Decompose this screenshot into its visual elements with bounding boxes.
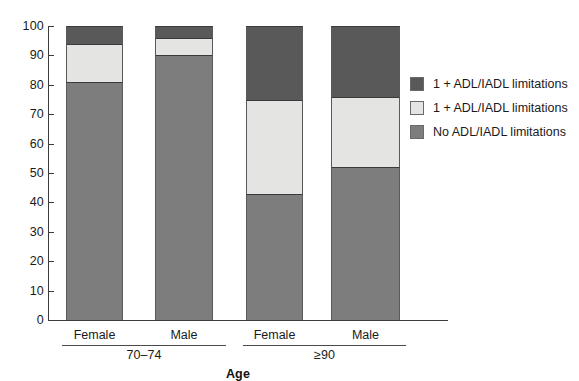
bar-segment xyxy=(331,97,400,168)
y-axis-tick xyxy=(48,55,54,56)
y-axis-tick-label: 30 xyxy=(0,226,44,238)
bar-segment xyxy=(246,100,303,194)
y-axis-tick xyxy=(48,144,54,145)
y-axis-tick-label-text: 30 xyxy=(4,226,44,238)
legend-swatch-icon xyxy=(410,77,424,91)
legend-swatch-icon xyxy=(410,101,424,115)
y-axis-tick-label: 40 xyxy=(0,196,44,208)
bar-segment xyxy=(155,26,213,38)
y-axis-tick-label-text: 90 xyxy=(4,49,44,61)
y-axis-tick xyxy=(48,291,54,292)
y-axis-tick xyxy=(48,232,54,233)
y-axis-tick-label: 90 xyxy=(0,49,44,61)
bar-segment xyxy=(155,55,213,320)
x-axis-tick-label: Female xyxy=(230,328,320,342)
bar-column xyxy=(246,26,303,320)
y-axis-tick-label: 80 xyxy=(0,79,44,91)
bar-segment xyxy=(66,82,123,320)
bar-column xyxy=(155,26,213,320)
y-axis-tick-label-text: 10 xyxy=(4,285,44,297)
y-axis-tick-label-text: 0 xyxy=(4,314,44,326)
bar-segment xyxy=(246,194,303,320)
y-axis-tick xyxy=(48,261,54,262)
legend-item: 1 + ADL/IADL limitations xyxy=(410,72,578,96)
x-axis-title: Age xyxy=(148,367,328,381)
bar-segment xyxy=(66,44,123,82)
y-axis-tick xyxy=(48,320,54,321)
legend-item-label: No ADL/IADL limitations xyxy=(433,125,566,139)
y-axis-tick-label-text: 60 xyxy=(4,138,44,150)
y-axis-tick xyxy=(48,173,54,174)
y-axis-tick-label: 70 xyxy=(0,108,44,120)
y-axis-tick-label: 0 xyxy=(0,314,44,326)
group-label-2: ≥90 xyxy=(243,348,406,362)
y-axis-tick xyxy=(48,85,54,86)
bar-segment xyxy=(66,26,123,44)
y-axis-tick-label: 100 xyxy=(0,20,44,32)
bar-column xyxy=(66,26,123,320)
legend-item-label: 1 + ADL/IADL limitations xyxy=(433,101,568,115)
bar-column xyxy=(331,26,400,320)
x-axis-line xyxy=(48,320,448,321)
y-axis-tick-label-text: 70 xyxy=(4,108,44,120)
y-axis-tick-label: 20 xyxy=(0,255,44,267)
bar-segment xyxy=(331,167,400,320)
y-axis-tick-label: 50 xyxy=(0,167,44,179)
bar-segment xyxy=(246,26,303,100)
x-axis-tick-label: Female xyxy=(50,328,140,342)
y-axis-tick xyxy=(48,26,54,27)
group-rule-1 xyxy=(62,345,226,346)
y-axis-tick-label: 10 xyxy=(0,285,44,297)
y-axis-tick xyxy=(48,202,54,203)
bar-segment xyxy=(331,26,400,97)
x-axis-tick-label: Male xyxy=(139,328,229,342)
group-label-1: 70–74 xyxy=(62,348,226,362)
y-axis-tick-label-text: 80 xyxy=(4,79,44,91)
bar-segment xyxy=(155,38,213,56)
group-rule-2 xyxy=(243,345,406,346)
x-axis-tick-label: Male xyxy=(321,328,411,342)
legend-swatch-icon xyxy=(410,125,424,139)
y-axis-tick-label-text: 50 xyxy=(4,167,44,179)
chart-legend: 1 + ADL/IADL limitations1 + ADL/IADL lim… xyxy=(410,72,578,144)
y-axis-tick-label-text: 40 xyxy=(4,196,44,208)
legend-item: 1 + ADL/IADL limitations xyxy=(410,96,578,120)
legend-item: No ADL/IADL limitations xyxy=(410,120,578,144)
y-axis-tick-label: 60 xyxy=(0,138,44,150)
legend-item-label: 1 + ADL/IADL limitations xyxy=(433,77,568,91)
y-axis-tick-label-text: 100 xyxy=(4,20,44,32)
y-axis-tick-label-text: 20 xyxy=(4,255,44,267)
y-axis-tick xyxy=(48,114,54,115)
